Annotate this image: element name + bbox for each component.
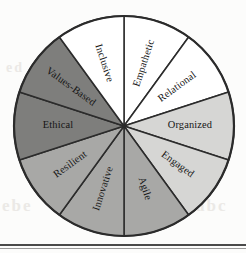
bottom-divider-rule-secondary — [0, 248, 246, 249]
bottom-divider-rule — [0, 244, 246, 246]
pie-slice-label: Ethical — [43, 119, 73, 130]
pie-chart-svg: EmpatheticRelationalOrganizedEngagedAgil… — [0, 0, 246, 253]
pie-chart: EmpatheticRelationalOrganizedEngagedAgil… — [0, 0, 246, 253]
page-canvas: ebe abc nm ed EmpatheticRelationalOrgani… — [0, 0, 246, 253]
pie-slice-label: Organized — [168, 119, 213, 130]
